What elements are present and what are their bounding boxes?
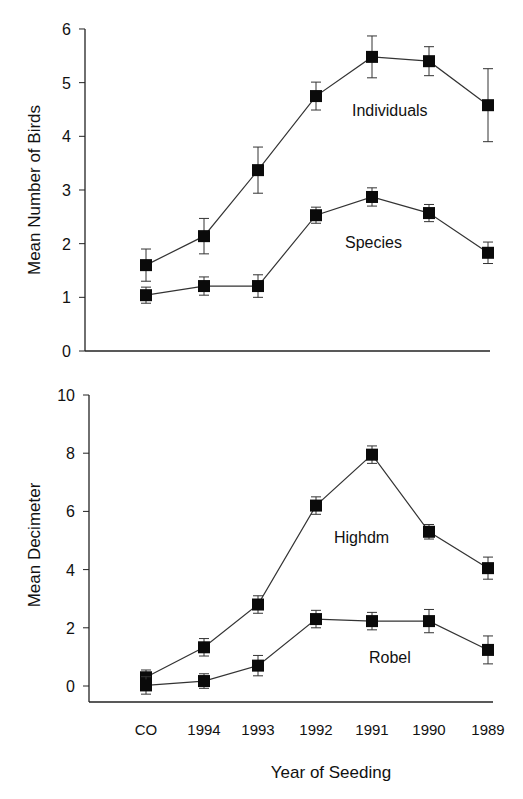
data-marker — [140, 259, 152, 271]
data-marker — [252, 164, 264, 176]
y-tick-label: 5 — [62, 75, 71, 92]
data-marker — [252, 280, 264, 292]
data-marker — [423, 207, 435, 219]
series-line — [146, 619, 488, 685]
y-axis-label-decimeter: Mean Decimeter — [25, 482, 44, 607]
y-tick-label: 10 — [57, 387, 75, 404]
x-tick-label: 1990 — [412, 721, 445, 738]
data-marker — [366, 51, 378, 63]
series-label-robel: Robel — [369, 649, 411, 666]
data-marker — [482, 644, 494, 656]
data-marker — [310, 90, 322, 102]
data-marker — [252, 660, 264, 672]
data-marker — [198, 230, 210, 242]
data-marker — [140, 289, 152, 301]
data-marker — [198, 641, 210, 653]
x-tick-labels: CO199419931992199119901989 — [135, 721, 505, 738]
y-tick-label: 1 — [62, 289, 71, 306]
data-marker — [366, 191, 378, 203]
series-line — [146, 57, 488, 265]
x-tick-label: 1993 — [241, 721, 274, 738]
y-tick-label: 0 — [66, 678, 75, 695]
x-tick-label: 1989 — [471, 721, 504, 738]
series-label-species: Species — [345, 234, 402, 251]
data-marker — [198, 280, 210, 292]
data-marker — [252, 599, 264, 611]
x-tick-label: CO — [135, 721, 158, 738]
x-axis-title: Year of Seeding — [271, 763, 391, 782]
y-tick-label: 3 — [62, 182, 71, 199]
figure: Mean Number of Birds 0123456 Individuals… — [0, 0, 523, 799]
data-marker — [482, 99, 494, 111]
data-marker — [423, 55, 435, 67]
y-tick-label: 2 — [62, 236, 71, 253]
series-line — [146, 455, 488, 678]
y-tick-label: 4 — [62, 128, 71, 145]
data-marker — [482, 562, 494, 574]
series-label-highdm: Highdm — [334, 529, 389, 546]
data-marker — [198, 675, 210, 687]
x-tick-label: 1992 — [299, 721, 332, 738]
x-tick-label: 1991 — [355, 721, 388, 738]
data-marker — [310, 500, 322, 512]
y-ticks-birds: 0123456 — [62, 21, 85, 360]
series-layer-decimeter — [140, 446, 494, 694]
data-marker — [423, 615, 435, 627]
data-marker — [310, 613, 322, 625]
y-tick-label: 6 — [62, 21, 71, 38]
data-marker — [366, 615, 378, 627]
series-label-individuals: Individuals — [352, 102, 428, 119]
data-marker — [366, 449, 378, 461]
y-axis-label-birds: Mean Number of Birds — [25, 105, 44, 275]
birds-chart: Mean Number of Birds 0123456 Individuals… — [25, 21, 494, 360]
data-marker — [423, 526, 435, 538]
y-tick-label: 8 — [66, 445, 75, 462]
y-ticks-decimeter: 0246810 — [57, 387, 89, 695]
y-tick-label: 6 — [66, 503, 75, 520]
data-marker — [310, 209, 322, 221]
data-marker — [482, 247, 494, 259]
decimeter-chart: Mean Decimeter 0246810 Highdm Robel — [25, 387, 494, 702]
series-layer-birds — [140, 36, 494, 303]
data-marker — [140, 679, 152, 691]
y-tick-label: 2 — [66, 620, 75, 637]
y-tick-label: 4 — [66, 562, 75, 579]
x-tick-label: 1994 — [187, 721, 220, 738]
y-tick-label: 0 — [62, 343, 71, 360]
